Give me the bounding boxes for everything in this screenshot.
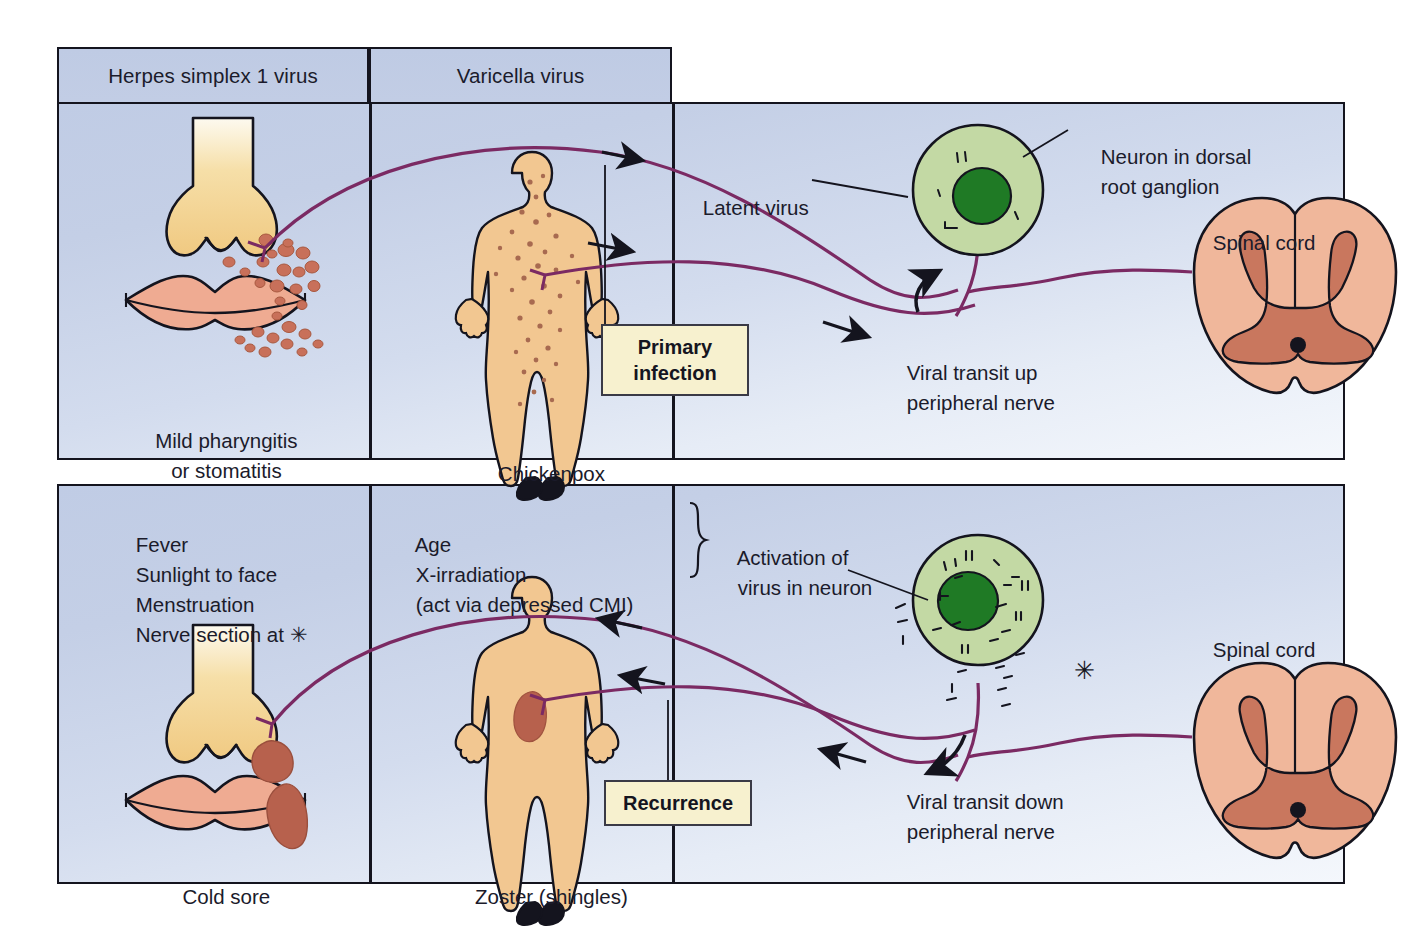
label-latent-virus: Latent virus	[680, 163, 809, 253]
callout-line-2: infection	[633, 360, 716, 386]
label-viral-transit-down-2: peripheral nerve	[884, 787, 1055, 877]
label-viral-transit-up-2: peripheral nerve	[884, 358, 1055, 448]
caption-text: Zoster (shingles)	[475, 885, 628, 908]
trigger-left-3: Nerve section at ✳	[113, 590, 308, 680]
header-cell-varicella: Varicella virus	[369, 47, 672, 104]
caption-line-2: or stomatitis	[171, 459, 282, 482]
caption-cold-sore: Cold sore	[115, 852, 315, 942]
label-spinal-cord-lower: Spinal cord	[1190, 605, 1315, 695]
label-line-2: root ganglion	[1101, 175, 1220, 198]
label-text: Spinal cord	[1213, 638, 1316, 661]
callout-primary-infection: Primary infection	[601, 324, 749, 396]
label-spinal-cord-upper: Spinal cord	[1190, 198, 1315, 288]
panel-primary-divider-1	[369, 102, 372, 460]
caption-text: Chickenpox	[498, 462, 605, 485]
header-label-hsv1: Herpes simplex 1 virus	[108, 64, 318, 88]
figure-canvas: Herpes simplex 1 virus Varicella virus	[0, 0, 1403, 944]
header-cell-hsv1: Herpes simplex 1 virus	[57, 47, 369, 104]
trigger-text: (act via depressed CMI)	[416, 593, 634, 616]
asterisk-icon-nerve-section: ✳	[1074, 658, 1095, 683]
trigger-mid-2: (act via depressed CMI)	[393, 560, 633, 650]
callout-line-1: Primary	[638, 334, 713, 360]
label-line-2: peripheral nerve	[907, 391, 1055, 414]
panel-recurrence-divider-1	[369, 484, 372, 884]
label-line-2: virus in neuron	[738, 576, 872, 599]
label-line-2: peripheral nerve	[907, 820, 1055, 843]
caption-chickenpox: Chickenpox	[440, 429, 640, 519]
caption-text: Cold sore	[183, 885, 271, 908]
panel-primary-divider-2	[672, 102, 675, 460]
label-activation-2: virus in neuron	[715, 543, 872, 633]
label-text: Spinal cord	[1213, 231, 1316, 254]
header-label-varicella: Varicella virus	[457, 64, 585, 88]
caption-zoster-shingles: Zoster (shingles)	[420, 852, 660, 942]
callout-recurrence: Recurrence	[604, 780, 752, 826]
asterisk-glyph: ✳	[1074, 656, 1095, 684]
label-text: Latent virus	[703, 196, 809, 219]
trigger-text: Nerve section at ✳	[136, 623, 308, 646]
callout-line-1: Recurrence	[623, 790, 733, 816]
